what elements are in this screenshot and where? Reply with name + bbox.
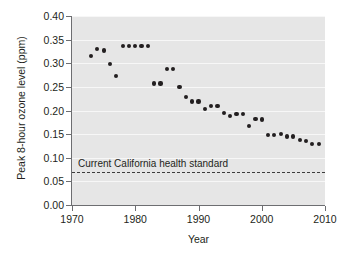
data-point xyxy=(127,44,131,48)
plot-area: Current California health standard xyxy=(72,16,325,205)
y-axis-tick-label: 0.30 xyxy=(4,58,64,68)
data-point xyxy=(241,112,245,116)
x-axis-title: Year xyxy=(72,233,325,245)
data-point xyxy=(253,117,257,121)
x-axis-tick xyxy=(262,206,263,211)
x-axis-tick xyxy=(135,206,136,211)
data-point xyxy=(203,107,207,111)
data-point xyxy=(209,104,213,108)
data-point xyxy=(304,139,308,143)
data-point xyxy=(184,95,188,99)
y-axis-tick-label: 0.10 xyxy=(4,153,64,163)
y-axis-tick-label: 0.25 xyxy=(4,82,64,92)
ozone-scatter-chart: Peak 8-hour ozone level (ppm) Current Ca… xyxy=(0,0,351,259)
data-point xyxy=(215,104,219,108)
data-point xyxy=(228,114,232,118)
x-axis-tick-label: 2010 xyxy=(295,213,351,225)
x-axis-tick xyxy=(72,206,73,211)
data-point xyxy=(133,44,137,48)
y-axis-tick xyxy=(66,158,71,159)
data-point xyxy=(247,124,251,128)
y-axis-tick xyxy=(66,87,71,88)
y-axis-tick xyxy=(66,16,71,17)
data-point xyxy=(152,81,156,85)
y-axis-tick xyxy=(66,40,71,41)
data-point xyxy=(139,44,143,48)
x-axis-tick-label: 1970 xyxy=(42,213,102,225)
x-axis-tick-label: 1990 xyxy=(169,213,229,225)
data-point xyxy=(177,85,181,89)
x-axis-tick xyxy=(325,206,326,211)
data-point xyxy=(260,117,264,121)
data-point xyxy=(121,44,125,48)
y-axis-tick-label: 0.05 xyxy=(4,176,64,186)
data-point xyxy=(298,138,302,142)
y-axis-tick xyxy=(66,205,71,206)
data-point xyxy=(89,54,93,58)
y-axis-tick xyxy=(66,111,71,112)
data-point xyxy=(272,133,276,137)
data-point xyxy=(165,67,169,71)
y-axis-tick-label: 0.15 xyxy=(4,129,64,139)
data-point xyxy=(190,99,194,103)
y-axis-tick-label: 0.40 xyxy=(4,11,64,21)
data-point xyxy=(291,134,295,138)
y-axis-tick xyxy=(66,134,71,135)
y-axis-tick-label: 0.35 xyxy=(4,35,64,45)
health-standard-label: Current California health standard xyxy=(78,158,228,169)
x-axis-tick-label: 2000 xyxy=(232,213,292,225)
gridline xyxy=(72,40,325,41)
data-point xyxy=(266,133,270,137)
data-point xyxy=(285,134,289,138)
data-point xyxy=(95,47,99,51)
y-axis-line xyxy=(71,16,72,206)
gridline xyxy=(72,181,325,182)
data-point xyxy=(158,81,162,85)
data-point xyxy=(114,74,118,78)
data-point xyxy=(108,62,112,66)
data-point xyxy=(196,99,200,103)
data-point xyxy=(102,48,106,52)
gridline xyxy=(72,87,325,88)
y-axis-tick xyxy=(66,181,71,182)
x-axis-tick xyxy=(199,206,200,211)
data-point xyxy=(279,132,283,136)
data-point xyxy=(171,67,175,71)
data-point xyxy=(146,44,150,48)
y-axis-tick-label: 0.00 xyxy=(4,200,64,210)
y-axis-tick-label: 0.20 xyxy=(4,106,64,116)
x-axis-tick-label: 1980 xyxy=(105,213,165,225)
gridline xyxy=(72,16,325,17)
y-axis-tick xyxy=(66,63,71,64)
gridline xyxy=(72,111,325,112)
data-point xyxy=(310,142,314,146)
data-point xyxy=(317,142,321,146)
data-point xyxy=(234,112,238,116)
data-point xyxy=(222,111,226,115)
health-standard-line xyxy=(72,172,325,173)
